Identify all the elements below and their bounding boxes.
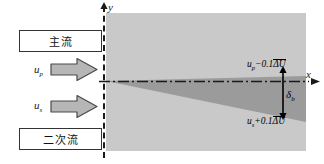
primary-velocity-subscript: p xyxy=(40,70,44,78)
primary-flow-callout-box: 主流 xyxy=(19,30,102,52)
secondary-flow-arrow-icon xyxy=(50,94,98,119)
thickness-measure-label: δb xyxy=(286,88,295,103)
upper-edge-coefficient: 0.1 xyxy=(261,59,273,69)
primary-flow-label: 主流 xyxy=(49,33,73,49)
shear-layer-diagram: y x 主流 二次流 up us up−0.1ΔU us+0.1ΔU xyxy=(0,0,324,164)
primary-flow-arrow-icon xyxy=(50,57,98,82)
secondary-flow-callout-box: 二次流 xyxy=(19,128,102,150)
secondary-velocity-label: us xyxy=(34,99,42,114)
secondary-velocity-subscript: s xyxy=(40,106,43,114)
primary-velocity-label: up xyxy=(34,63,43,78)
x-axis-label: x xyxy=(306,68,311,80)
thickness-measure-subscript: b xyxy=(291,95,295,103)
lower-edge-coefficient: 0.1 xyxy=(261,116,273,126)
secondary-flow-label: 二次流 xyxy=(43,131,79,147)
y-axis-label: y xyxy=(108,1,113,13)
